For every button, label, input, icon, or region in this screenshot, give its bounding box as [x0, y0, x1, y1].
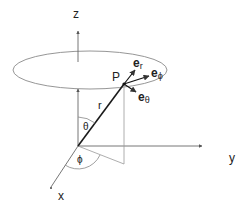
ephi-label: eϕ	[151, 66, 163, 81]
etheta-label: eθ	[138, 90, 150, 105]
er-label: er	[133, 56, 143, 71]
x-axis	[51, 146, 78, 187]
y-axis-label: y	[229, 151, 235, 165]
latitude-circle	[13, 51, 167, 89]
radius-vector	[78, 84, 124, 146]
x-axis-end-dot	[50, 187, 52, 189]
phi-label: ϕ	[77, 154, 83, 165]
x-axis-label: x	[58, 189, 64, 203]
projection-floor	[78, 146, 124, 164]
point-label: P	[112, 70, 120, 84]
theta-label: θ	[83, 121, 89, 132]
z-axis-label: z	[73, 7, 79, 21]
spherical-coordinates-diagram: z y x P r θ ϕ er eϕ eθ	[0, 0, 248, 212]
radius-label: r	[98, 99, 102, 111]
